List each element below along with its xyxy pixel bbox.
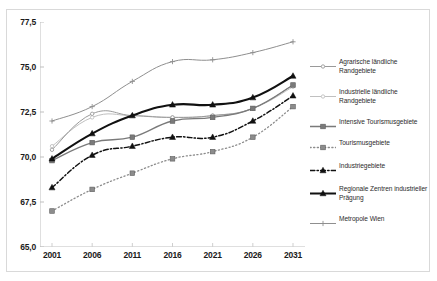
legend-swatch-icon: [310, 88, 336, 99]
series-marker: [291, 104, 296, 109]
legend-item-label: Tourismusgebiete: [339, 139, 435, 148]
plot-area: [40, 22, 305, 247]
clipped-title-strip: [0, 0, 437, 8]
series-canvas: [40, 22, 305, 247]
legend-item-label: Industriegebiete: [339, 162, 435, 171]
series-marker: [210, 57, 215, 62]
series-line: [52, 42, 293, 121]
x-axis-tick-label: 2011: [112, 250, 152, 260]
x-axis-tick-label: 2021: [193, 250, 233, 260]
legend-item[interactable]: Metropole Wien: [310, 215, 435, 226]
series-marker: [290, 39, 295, 44]
x-axis-tick-label: 2031: [273, 250, 313, 260]
legend-swatch-icon: [310, 162, 336, 173]
x-axis-tick-label: 2026: [233, 250, 273, 260]
series-marker: [130, 171, 135, 176]
series-marker: [251, 106, 256, 111]
legend-item-label: Industrielle ländliche Randgebiete: [339, 88, 435, 105]
y-axis-tick-label: 67,5: [2, 197, 36, 207]
legend-swatch-icon: [310, 118, 336, 129]
chart-container: 65,067,570,072,575,077,5 200120062011201…: [0, 0, 437, 281]
y-axis-tick-label: 70,0: [2, 152, 36, 162]
series-marker: [250, 50, 255, 55]
legend-item[interactable]: Industrielle ländliche Randgebiete: [310, 88, 435, 105]
series-marker: [50, 145, 53, 148]
series-marker: [210, 115, 215, 120]
y-axis-tick-label: 65,0: [2, 242, 36, 252]
x-axis-tick-label: 2001: [32, 250, 72, 260]
series-marker: [210, 149, 215, 154]
series-marker: [170, 119, 175, 124]
series-marker: [90, 187, 95, 192]
series-marker: [290, 93, 296, 99]
series-marker: [170, 59, 175, 64]
series-marker: [50, 209, 55, 214]
x-axis-tick-labels: 2001200620112016202120262031: [40, 250, 305, 264]
series-marker: [291, 83, 296, 88]
legend-swatch-icon: [310, 139, 336, 150]
legend-item-label: Regionale Zentren industrieller Prägung: [339, 185, 435, 202]
legend-item[interactable]: Intensive Tourismusgebiete: [310, 118, 435, 129]
legend-item[interactable]: Regionale Zentren industrieller Prägung: [310, 185, 435, 202]
series-marker: [90, 140, 95, 145]
series-marker: [170, 157, 175, 162]
y-axis-tick-label: 75,0: [2, 62, 36, 72]
series-marker: [130, 79, 135, 84]
legend-swatch-icon: [310, 58, 336, 69]
series-marker: [251, 135, 256, 140]
series-marker: [49, 118, 54, 123]
legend-swatch-icon: [310, 215, 336, 226]
series-marker: [90, 104, 95, 109]
series-marker: [130, 135, 135, 140]
legend-item-label: Metropole Wien: [339, 215, 435, 224]
legend-item[interactable]: Tourismusgebiete: [310, 139, 435, 150]
y-axis-tick-label: 72,5: [2, 107, 36, 117]
series-marker: [290, 73, 296, 79]
legend-item[interactable]: Agrarische ländliche Randgebiete: [310, 58, 435, 75]
legend-item-label: Intensive Tourismusgebiete: [339, 118, 435, 127]
x-axis-tick-label: 2016: [153, 250, 193, 260]
y-axis-tick-label: 77,5: [2, 17, 36, 27]
series-marker: [50, 148, 53, 151]
series-marker: [90, 112, 93, 115]
legend-item[interactable]: Industriegebiete: [310, 162, 435, 173]
series-line: [52, 96, 293, 188]
legend-swatch-icon: [310, 185, 336, 196]
legend-item-label: Agrarische ländliche Randgebiete: [339, 58, 435, 75]
y-axis-tick-labels: 65,067,570,072,575,077,5: [0, 22, 36, 247]
series-marker: [90, 116, 93, 119]
x-axis-tick-label: 2006: [72, 250, 112, 260]
